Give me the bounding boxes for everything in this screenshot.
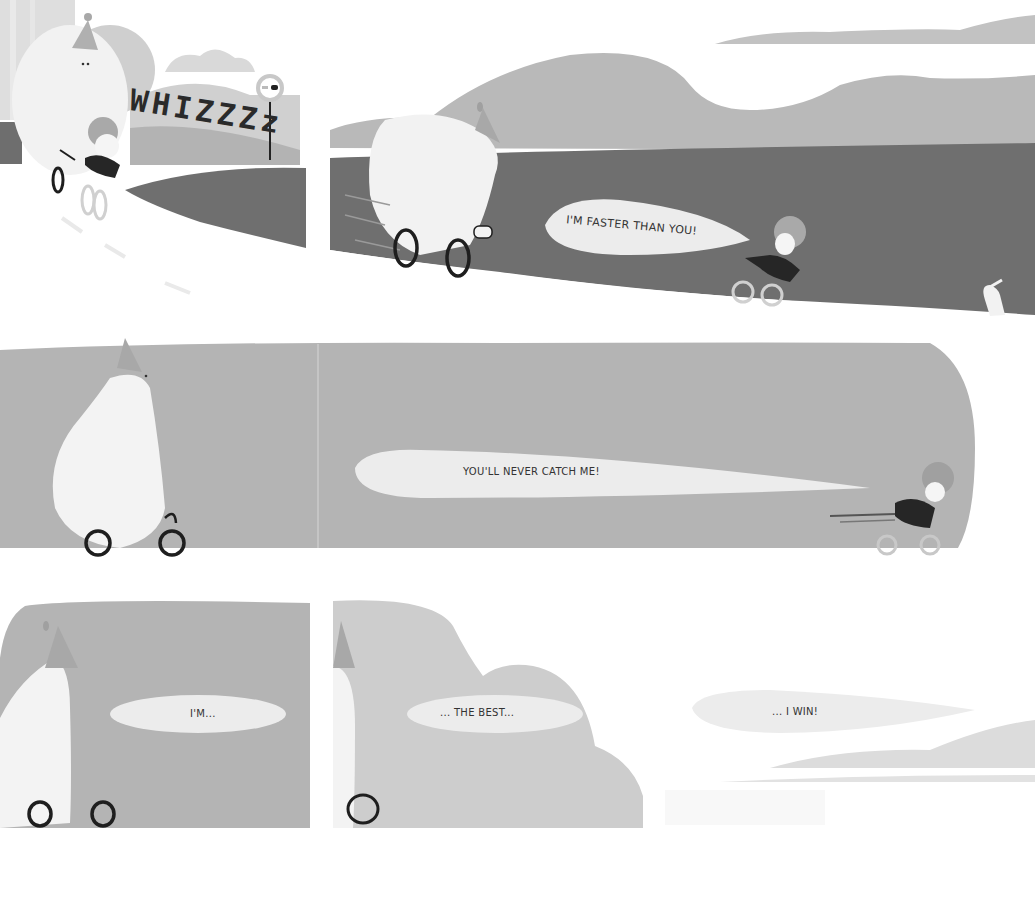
panel-3-illustration (0, 338, 1035, 568)
panel-4-illustration (0, 598, 312, 830)
panel-6-illustration (660, 640, 1035, 840)
panel-3: YOU'LL NEVER CATCH ME! (0, 338, 1035, 568)
panel-2-illustration (330, 0, 1035, 320)
panel-2: I'M FASTER THAN YOU! (330, 0, 1035, 320)
panel-6: ... I WIN! (660, 640, 1035, 840)
panel-4: I'M... (0, 598, 312, 830)
speech-i-win: ... I WIN! (772, 706, 818, 717)
panel-1-illustration (0, 0, 310, 300)
panel-1: WHIZZZz (0, 0, 310, 300)
speech-never-catch-me: YOU'LL NEVER CATCH ME! (463, 466, 600, 477)
speech-im: I'M... (190, 708, 216, 719)
speech-the-best: ... THE BEST... (440, 707, 514, 718)
panel-5: ... THE BEST... (333, 596, 645, 830)
